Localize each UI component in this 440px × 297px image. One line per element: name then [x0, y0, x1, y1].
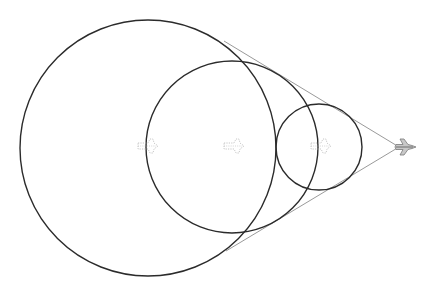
circle-medium: [146, 61, 318, 233]
ghost-aircraft-icon: [224, 139, 244, 153]
jet-aircraft-icon: [395, 139, 416, 155]
circle-large: [20, 20, 276, 276]
tangent-line-upper: [224, 41, 399, 147]
circle-small: [276, 104, 362, 190]
diagram-canvas: [0, 0, 440, 297]
ghost-aircraft-icon: [311, 139, 331, 153]
tangent-line-lower: [226, 147, 399, 251]
ghost-aircraft-group: [138, 139, 331, 153]
ghost-aircraft-icon: [138, 139, 158, 153]
range-circles: [20, 20, 362, 276]
